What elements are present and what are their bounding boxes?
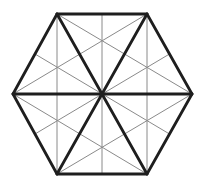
hexagon-diagram (0, 0, 202, 185)
